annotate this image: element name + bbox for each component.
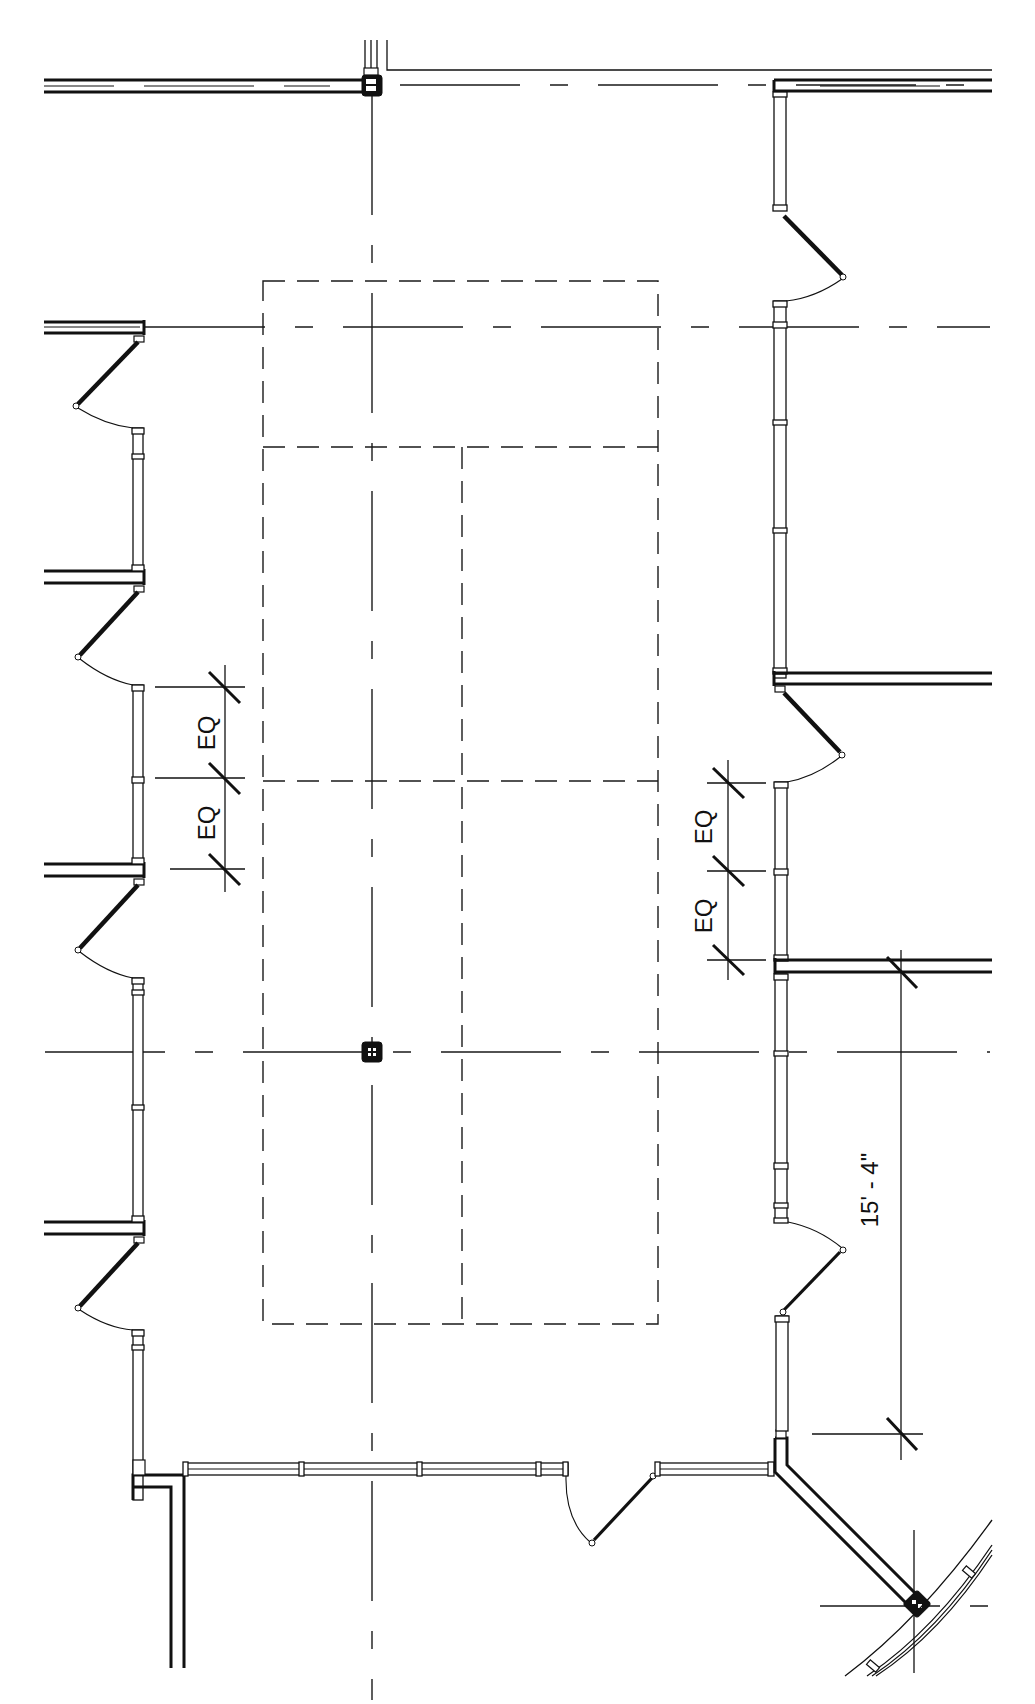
dim-label-left-bottom: EQ bbox=[193, 806, 220, 841]
door-left-4-icon bbox=[75, 1237, 144, 1330]
door-right-2-icon bbox=[784, 693, 845, 782]
ceiling-grid bbox=[263, 281, 658, 1324]
dim-label-left-top: EQ bbox=[193, 716, 220, 751]
top-walls bbox=[44, 40, 992, 92]
gridlines bbox=[45, 85, 990, 1700]
left-wall-3 bbox=[44, 862, 144, 878]
glazing-right-1 bbox=[774, 92, 786, 210]
glazing-left-2 bbox=[133, 685, 143, 864]
door-left-1-icon bbox=[73, 336, 144, 428]
column-center-icon bbox=[362, 1042, 382, 1062]
ceiling-outline bbox=[263, 281, 658, 1324]
dimension-left-eq: EQ EQ bbox=[155, 665, 245, 892]
glazing-left-1 bbox=[133, 428, 143, 571]
bottom-partition bbox=[133, 1430, 920, 1668]
glazing-right-5 bbox=[776, 1316, 788, 1431]
dim-label-right-bottom: EQ bbox=[690, 899, 717, 934]
left-wall-2 bbox=[44, 569, 144, 585]
floor-plan-drawing: EQ EQ EQ EQ 15' - 4" bbox=[0, 0, 1035, 1704]
dim-label-right-top: EQ bbox=[690, 810, 717, 845]
column-top-icon bbox=[362, 68, 382, 96]
door-bottom-icon bbox=[566, 1473, 656, 1546]
left-wall-4 bbox=[44, 1220, 144, 1236]
left-partition bbox=[44, 320, 144, 1500]
left-wall-1 bbox=[44, 320, 144, 335]
dimension-right-eq: EQ EQ bbox=[690, 760, 766, 980]
door-left-2-icon bbox=[75, 586, 144, 685]
door-right-3-icon bbox=[780, 1222, 846, 1315]
dim-label-overall: 15' - 4" bbox=[856, 1153, 883, 1227]
glazing-right-2 bbox=[774, 301, 786, 678]
column-bottom-right-icon bbox=[903, 1590, 931, 1618]
glazing-right-4 bbox=[775, 974, 787, 1222]
door-left-3-icon bbox=[75, 879, 144, 978]
right-partition bbox=[773, 92, 992, 1431]
dimension-overall: 15' - 4" bbox=[812, 950, 923, 1460]
door-right-1-icon bbox=[784, 216, 846, 301]
glazing-left-3 bbox=[133, 978, 143, 1222]
